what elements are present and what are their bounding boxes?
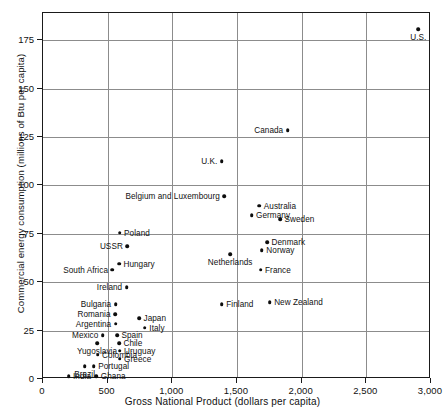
- gridline-vertical: [366, 13, 367, 377]
- data-point: [137, 316, 141, 320]
- data-point: [117, 341, 121, 345]
- x-axis-tick-label: 0: [39, 385, 44, 396]
- data-point: [96, 353, 100, 357]
- data-point: [223, 194, 227, 198]
- data-point-label: Ireland: [97, 282, 122, 291]
- data-point-label: Argentina: [76, 319, 112, 328]
- data-point: [257, 204, 261, 208]
- data-point: [101, 334, 105, 338]
- data-point: [95, 341, 99, 345]
- y-axis-tick: [37, 39, 42, 40]
- gridline-horizontal: [43, 185, 429, 186]
- data-point-label: Poland: [124, 228, 150, 237]
- data-point: [228, 252, 232, 256]
- data-point: [113, 312, 117, 316]
- data-point: [286, 128, 290, 132]
- data-point: [265, 241, 269, 245]
- data-point: [95, 374, 99, 378]
- data-point: [126, 245, 130, 249]
- data-point-label: Japan: [144, 313, 167, 322]
- data-point: [260, 248, 264, 252]
- x-axis-tick: [42, 378, 43, 383]
- data-point: [143, 326, 147, 330]
- y-axis-tick: [37, 184, 42, 185]
- y-axis-tick: [37, 88, 42, 89]
- x-axis-tick: [430, 378, 431, 383]
- data-point: [125, 285, 129, 289]
- data-point: [417, 28, 421, 32]
- data-point: [259, 268, 263, 272]
- gridline-horizontal: [43, 40, 429, 41]
- data-point: [117, 262, 121, 266]
- data-point-label: India: [73, 372, 91, 381]
- data-point-label: Hungary: [123, 259, 154, 268]
- gridline-vertical: [302, 13, 303, 377]
- x-axis-tick: [236, 378, 237, 383]
- y-axis-tick-label: 50: [8, 276, 34, 287]
- data-point: [220, 303, 224, 307]
- data-point: [115, 334, 119, 338]
- data-point: [67, 374, 71, 378]
- y-axis-tick-label: 100: [8, 179, 34, 190]
- data-point: [118, 357, 122, 361]
- x-axis-tick: [365, 378, 366, 383]
- y-axis-tick-label: 150: [8, 82, 34, 93]
- data-point-label: Belgium and Luxembourg: [125, 191, 219, 200]
- data-point-label: South Africa: [63, 265, 108, 274]
- data-point-label: Mexico: [72, 331, 98, 340]
- x-axis-tick-label: 2,500: [353, 385, 377, 396]
- y-axis-tick-label: 175: [8, 34, 34, 45]
- x-axis-tick-label: 1,000: [159, 385, 183, 396]
- data-point: [220, 159, 224, 163]
- data-point-label: Norway: [266, 246, 294, 255]
- y-axis-tick-label: 25: [8, 324, 34, 335]
- data-point: [118, 231, 122, 235]
- data-point-label: Canada: [254, 126, 283, 135]
- data-point: [268, 301, 272, 305]
- gridline-horizontal: [43, 137, 429, 138]
- data-point-label: Ghana: [101, 372, 126, 381]
- data-point: [92, 365, 96, 369]
- chart-page: Gross National Product (dollars per capi…: [0, 0, 445, 414]
- data-point-label: Sweden: [284, 215, 314, 224]
- x-axis-title: Gross National Product (dollars per capi…: [0, 396, 445, 407]
- data-point: [114, 322, 118, 326]
- data-point-label: U.S.: [410, 33, 426, 42]
- data-point: [114, 303, 118, 307]
- y-axis-tick: [37, 281, 42, 282]
- x-axis-tick: [301, 378, 302, 383]
- data-point-label: Bulgaria: [81, 300, 111, 309]
- y-axis-tick: [37, 330, 42, 331]
- x-axis-tick-label: 2,000: [289, 385, 313, 396]
- y-axis-tick-label: 0: [8, 373, 34, 384]
- y-axis-tick: [37, 233, 42, 234]
- x-axis-tick-label: 500: [99, 385, 115, 396]
- y-axis-tick-label: 75: [8, 227, 34, 238]
- gridline-horizontal: [43, 331, 429, 332]
- data-point-label: Italy: [149, 323, 164, 332]
- data-point: [83, 365, 87, 369]
- y-axis-tick-label: 125: [8, 130, 34, 141]
- gridline-horizontal: [43, 234, 429, 235]
- x-axis-tick-label: 1,500: [224, 385, 248, 396]
- data-point-label: USSR: [100, 242, 123, 251]
- data-point-label: Finland: [226, 300, 253, 309]
- data-point-label: New Zealand: [274, 298, 323, 307]
- data-point: [278, 217, 282, 221]
- gridline-horizontal: [43, 89, 429, 90]
- data-point: [250, 214, 254, 218]
- x-axis-tick: [171, 378, 172, 383]
- gridline-vertical: [237, 13, 238, 377]
- data-point-label: Portugal: [98, 362, 129, 371]
- x-axis-tick-label: 3,000: [418, 385, 442, 396]
- data-point-label: France: [265, 265, 291, 274]
- y-axis-tick: [37, 136, 42, 137]
- y-axis-tick: [37, 378, 42, 379]
- data-point-label: Romania: [77, 310, 110, 319]
- data-point: [111, 268, 115, 272]
- data-point-label: U.K.: [201, 157, 217, 166]
- data-point-label: Australia: [264, 201, 296, 210]
- data-point-label: Netherlands: [208, 258, 253, 267]
